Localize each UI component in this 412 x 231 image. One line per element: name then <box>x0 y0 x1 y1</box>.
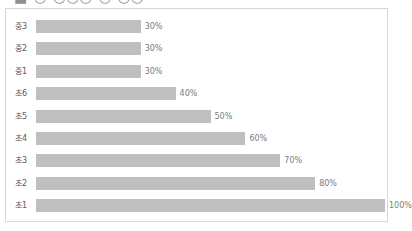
bar-track: 80% <box>36 177 385 190</box>
bar-category-label: 초2 <box>6 177 36 190</box>
bar-row: 초280% <box>6 177 387 190</box>
bar-value-label: 60% <box>245 132 267 145</box>
bar-row: 초370% <box>6 154 387 167</box>
bar-row: 중230% <box>6 42 387 55</box>
chart-frame: 중330%중230%중130%초640%초550%초460%초370%초280%… <box>5 8 388 222</box>
bar-row: 중130% <box>6 65 387 78</box>
bar-fill <box>36 42 141 55</box>
bar-fill <box>36 110 211 123</box>
bar-category-label: 초5 <box>6 110 36 123</box>
bar-value-label: 100% <box>385 199 412 212</box>
bar-value-label: 70% <box>280 154 302 167</box>
cropped-heading-text: ■ ○ ○○○ ○ ○○ <box>14 0 144 5</box>
bar-track: 50% <box>36 110 385 123</box>
bar-value-label: 50% <box>211 110 233 123</box>
cropped-heading: ■ ○ ○○○ ○ ○○ <box>0 0 396 6</box>
bar-track: 60% <box>36 132 385 145</box>
bar-value-label: 30% <box>141 65 163 78</box>
bar-fill <box>36 87 176 100</box>
bar-fill <box>36 177 315 190</box>
bar-fill <box>36 132 245 145</box>
bar-chart-plot-area: 중330%중230%중130%초640%초550%초460%초370%초280%… <box>6 9 387 221</box>
bar-row: 초460% <box>6 132 387 145</box>
bar-category-label: 중2 <box>6 42 36 55</box>
bar-track: 70% <box>36 154 385 167</box>
bar-value-label: 40% <box>176 87 198 100</box>
bar-value-label: 30% <box>141 20 163 33</box>
bar-value-label: 80% <box>315 177 337 190</box>
bar-category-label: 초3 <box>6 154 36 167</box>
bar-fill <box>36 199 385 212</box>
bar-value-label: 30% <box>141 42 163 55</box>
bar-row: 초640% <box>6 87 387 100</box>
bar-track: 30% <box>36 20 385 33</box>
bar-row: 중330% <box>6 20 387 33</box>
bar-fill <box>36 154 280 167</box>
bar-category-label: 초4 <box>6 132 36 145</box>
bar-track: 30% <box>36 42 385 55</box>
bar-category-label: 중1 <box>6 65 36 78</box>
bar-category-label: 초1 <box>6 199 36 212</box>
bar-category-label: 중3 <box>6 20 36 33</box>
bar-category-label: 초6 <box>6 87 36 100</box>
bar-fill <box>36 65 141 78</box>
bar-row: 초550% <box>6 110 387 123</box>
bar-fill <box>36 20 141 33</box>
bar-track: 30% <box>36 65 385 78</box>
bar-track: 40% <box>36 87 385 100</box>
bar-track: 100% <box>36 199 385 212</box>
bar-row: 초1100% <box>6 199 387 212</box>
